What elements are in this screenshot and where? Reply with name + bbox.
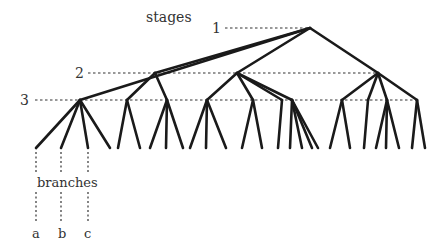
stages-title: stages	[146, 10, 192, 24]
decision-tree-diagram	[0, 0, 448, 251]
stage-label-2: 2	[75, 66, 84, 80]
branch-label-c: c	[84, 227, 91, 240]
stage-label-3: 3	[20, 93, 29, 107]
tree-edges	[36, 28, 425, 148]
branches-label: branches	[37, 176, 98, 189]
branch-label-b: b	[58, 227, 66, 240]
stage-label-1: 1	[212, 21, 221, 35]
branch-label-a: a	[32, 227, 40, 240]
